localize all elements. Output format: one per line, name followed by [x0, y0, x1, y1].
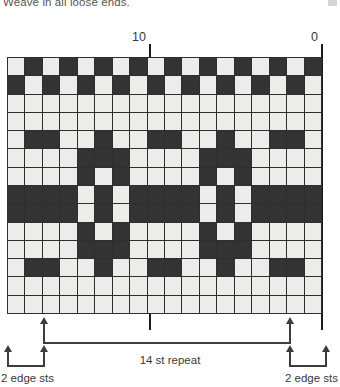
chart-cell	[95, 259, 111, 276]
chart-cell	[78, 58, 94, 75]
chart-cell	[60, 204, 76, 221]
chart-cell	[305, 277, 321, 294]
chart-cell	[305, 186, 321, 203]
chart-cell	[252, 241, 268, 258]
chart-cell	[8, 204, 24, 221]
chart-cell	[130, 131, 146, 148]
chart-cell	[95, 204, 111, 221]
chart-cell	[217, 186, 233, 203]
chart-cell	[113, 296, 129, 313]
chart-cell	[113, 131, 129, 148]
chart-cell	[113, 259, 129, 276]
chart-cell	[217, 131, 233, 148]
chart-cell	[60, 223, 76, 240]
chart-cell	[200, 95, 216, 112]
chart-cell	[182, 186, 198, 203]
chart-cell	[200, 131, 216, 148]
chart-cell	[78, 186, 94, 203]
chart-annotations: 14 st repeat 2 edge sts 2 edge sts	[0, 314, 340, 387]
chart-cell	[78, 296, 94, 313]
chart-cell	[165, 259, 181, 276]
edge-label-left: 2 edge sts	[1, 372, 54, 384]
chart-cell	[60, 149, 76, 166]
chart-cell	[165, 95, 181, 112]
chart-cell	[235, 149, 251, 166]
chart-cell	[270, 76, 286, 93]
edge-arrow-right-a	[286, 345, 294, 352]
chart-cell	[270, 296, 286, 313]
chart-cell	[287, 241, 303, 258]
chart-cell	[235, 58, 251, 75]
chart-cell	[270, 223, 286, 240]
chart-cell	[148, 259, 164, 276]
chart-cell	[8, 241, 24, 258]
chart-cell	[25, 131, 41, 148]
chart-cell	[113, 113, 129, 130]
chart-cell	[182, 296, 198, 313]
chart-cell	[287, 131, 303, 148]
chart-cell	[287, 149, 303, 166]
chart-cell	[217, 149, 233, 166]
chart-cell	[78, 277, 94, 294]
chart-cell	[287, 186, 303, 203]
chart-cell	[43, 131, 59, 148]
chart-cell	[305, 168, 321, 185]
chart-cell	[270, 58, 286, 75]
chart-cell	[217, 296, 233, 313]
chart-cell	[60, 113, 76, 130]
chart-cell	[25, 58, 41, 75]
chart-cell	[235, 168, 251, 185]
chart-cell	[130, 168, 146, 185]
chart-cell	[165, 58, 181, 75]
chart-cell	[165, 113, 181, 130]
chart-cell	[60, 76, 76, 93]
chart-cell	[305, 204, 321, 221]
chart-cell	[217, 259, 233, 276]
chart-cell	[78, 168, 94, 185]
chart-cell	[113, 277, 129, 294]
chart-cell	[60, 168, 76, 185]
chart-cell	[305, 58, 321, 75]
chart-cell	[148, 76, 164, 93]
chart-cell	[148, 296, 164, 313]
chart-cell	[130, 296, 146, 313]
chart-cell	[43, 76, 59, 93]
instruction-text: Weave in all loose ends.	[3, 0, 130, 8]
chart-cell	[287, 204, 303, 221]
chart-cell	[252, 113, 268, 130]
chart-cell	[95, 186, 111, 203]
chart-cell	[217, 223, 233, 240]
chart-cell	[165, 76, 181, 93]
edge-arrow-right-b	[322, 345, 330, 352]
chart-cell	[182, 241, 198, 258]
chart-cell	[113, 223, 129, 240]
chart-cell	[95, 168, 111, 185]
chart-cell	[252, 277, 268, 294]
chart-cell	[95, 95, 111, 112]
chart-cell	[43, 58, 59, 75]
chart-cell	[95, 76, 111, 93]
chart-cell	[165, 204, 181, 221]
chart-cell	[182, 95, 198, 112]
chart-cell	[130, 277, 146, 294]
chart-cell	[113, 204, 129, 221]
chart-cell	[78, 95, 94, 112]
chart-cell	[43, 296, 59, 313]
chart-cell	[148, 186, 164, 203]
chart-cell	[252, 76, 268, 93]
repeat-bracket-left-stem	[43, 322, 45, 343]
chart-cell	[182, 131, 198, 148]
chart-cell	[305, 223, 321, 240]
chart-cell	[217, 58, 233, 75]
chart-cell	[60, 186, 76, 203]
chart-cell	[252, 131, 268, 148]
chart-cell	[305, 259, 321, 276]
chart-cell	[200, 296, 216, 313]
chart-cell	[130, 186, 146, 203]
chart-cell	[287, 223, 303, 240]
chart-cell	[305, 113, 321, 130]
chart-cell	[252, 186, 268, 203]
chart-cell	[25, 241, 41, 258]
chart-cell	[252, 149, 268, 166]
chart-cell	[252, 58, 268, 75]
